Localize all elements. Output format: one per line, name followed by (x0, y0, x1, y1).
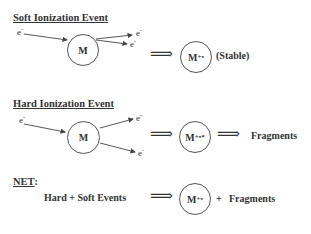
soft-product-circle: M+• (180, 41, 212, 73)
net-fragments-label: Fragments (229, 193, 275, 204)
electron-charge: - (140, 26, 142, 33)
net-heading: NET: (13, 171, 38, 189)
product-symbol: M (188, 52, 197, 63)
hard-electron-out-label-1: e- (136, 113, 142, 123)
net-heading-text: NET (13, 176, 35, 187)
electron-charge: - (21, 25, 23, 32)
molecule-symbol: M (78, 45, 87, 56)
net-plus-sign: + (216, 193, 222, 204)
electron-charge: - (142, 146, 144, 153)
electron-charge: - (134, 37, 136, 44)
hard-fragment-arrow-icon: ⟹ (217, 124, 240, 143)
soft-electron-in-arrow (24, 34, 67, 40)
hard-electron-in-label: e- (19, 115, 25, 125)
net-product-circle: M+• (179, 183, 211, 215)
hard-implies-arrow-icon: ⟹ (150, 124, 173, 143)
stable-label: (Stable) (216, 50, 249, 61)
net-colon: : (35, 176, 38, 187)
hard-electron-out-arrow-1 (100, 119, 133, 128)
soft-electron-out-arrow-2 (96, 40, 127, 44)
net-implies-arrow-icon: ⟹ (150, 186, 173, 205)
net-lhs-label: Hard + Soft Events (44, 192, 126, 203)
product-symbol: M (187, 194, 196, 205)
soft-molecule-circle: M (67, 34, 99, 66)
hard-molecule-circle: M (67, 121, 100, 154)
molecule-symbol: M (79, 132, 88, 143)
soft-electron-out-arrow-1 (96, 35, 132, 39)
soft-implies-arrow-icon: ⟹ (150, 44, 173, 63)
soft-ionization-heading: Soft Ionization Event (13, 12, 108, 23)
hard-fragments-label: Fragments (251, 130, 297, 141)
hard-electron-in-arrow (24, 124, 65, 132)
soft-electron-out-label-2: e- (130, 39, 136, 49)
hard-electron-out-arrow-2 (100, 143, 135, 152)
hard-electron-out-label-2: e- (138, 148, 144, 158)
electron-charge: - (23, 113, 25, 120)
hard-product-circle: M+•* (179, 121, 211, 153)
electron-charge: - (140, 111, 142, 118)
soft-electron-out-label-1: e- (136, 28, 142, 38)
hard-ionization-heading: Hard Ionization Event (13, 98, 114, 109)
product-symbol: M (185, 132, 194, 143)
soft-electron-in-label: e- (17, 27, 23, 37)
